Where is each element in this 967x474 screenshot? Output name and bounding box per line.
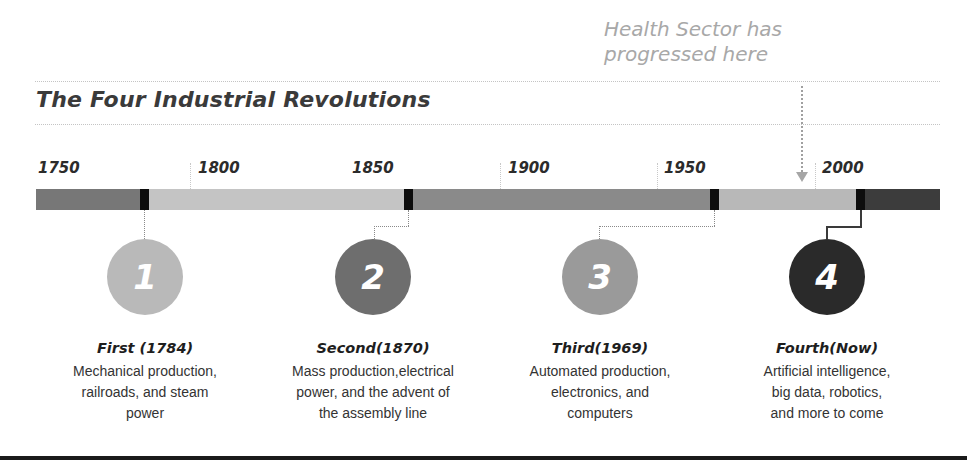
timeline-marker-third [710, 189, 719, 210]
stage-2-desc-line: Mass production,electrical [268, 361, 478, 382]
stage-1-number-badge: 1 [107, 239, 183, 315]
stage-3-info: Third(1969) Automated production, electr… [495, 338, 705, 424]
top-dotted-rule [35, 81, 940, 82]
timeline-segment-third [719, 189, 856, 210]
year-tick-1950 [657, 163, 658, 189]
bottom-divider [0, 456, 967, 460]
timeline-marker-first [140, 189, 149, 210]
stage-3-desc-line: electronics, and [495, 382, 705, 403]
year-tick-1800 [190, 163, 191, 189]
timeline-segment-fourth [865, 189, 940, 210]
timeline-segment-first [149, 189, 404, 210]
stage-4-number: 4 [815, 257, 839, 297]
timeline-segment-pre-first [36, 189, 140, 210]
stage-4-info: Fourth(Now) Artificial intelligence, big… [722, 338, 932, 424]
connector-fourth-a [860, 210, 862, 227]
callout-arrow-shaft [801, 86, 803, 176]
connector-fourth-c [826, 226, 828, 239]
stage-2-number-badge: 2 [335, 239, 411, 315]
diagram-title: The Four Industrial Revolutions [36, 87, 431, 112]
connector-second-b [374, 226, 409, 227]
timeline-segment-second [413, 189, 710, 210]
stage-2-number: 2 [361, 257, 385, 297]
health-sector-callout: Health Sector has progressed here [604, 17, 782, 67]
timeline-marker-fourth [856, 189, 865, 210]
title-dotted-rule [35, 124, 940, 125]
stage-4-heading: Fourth(Now) [722, 338, 932, 360]
stage-2-description: Mass production,electrical power, and th… [268, 361, 478, 424]
stage-3-desc-line: computers [495, 403, 705, 424]
year-label-2000: 2000 [822, 159, 864, 177]
stage-2-desc-line: the assembly line [268, 403, 478, 424]
year-tick-2000 [815, 163, 816, 189]
connector-fourth-b [826, 226, 862, 228]
year-label-1800: 1800 [198, 159, 240, 177]
connector-second-c [374, 226, 375, 239]
callout-line-1: Health Sector has [604, 17, 782, 42]
year-tick-1900 [500, 163, 501, 189]
stage-2-info: Second(1870) Mass production,electrical … [268, 338, 478, 424]
stage-1-info: First (1784) Mechanical production, rail… [40, 338, 250, 424]
stage-4-description: Artificial intelligence, big data, robot… [722, 361, 932, 424]
timeline-marker-second [404, 189, 413, 210]
stage-2-desc-line: power, and the advent of [268, 382, 478, 403]
arrow-down-icon [796, 172, 808, 182]
stage-4-desc-line: big data, robotics, [722, 382, 932, 403]
stage-4-desc-line: Artificial intelligence, [722, 361, 932, 382]
connector-first [144, 210, 145, 239]
stage-3-desc-line: Automated production, [495, 361, 705, 382]
stage-3-number-badge: 3 [562, 239, 638, 315]
stage-3-number: 3 [588, 257, 612, 297]
stage-4-number-badge: 4 [789, 239, 865, 315]
year-label-1950: 1950 [664, 159, 706, 177]
stage-1-number: 1 [133, 257, 157, 297]
stage-3-heading: Third(1969) [495, 338, 705, 360]
year-label-1850: 1850 [352, 159, 394, 177]
callout-line-2: progressed here [604, 42, 782, 67]
stage-1-desc-line: power [40, 403, 250, 424]
stage-3-description: Automated production, electronics, and c… [495, 361, 705, 424]
stage-4-desc-line: and more to come [722, 403, 932, 424]
stage-1-desc-line: railroads, and steam [40, 382, 250, 403]
connector-third-a [714, 210, 715, 226]
stage-1-desc-line: Mechanical production, [40, 361, 250, 382]
connector-third-c [599, 226, 600, 239]
year-label-1900: 1900 [508, 159, 550, 177]
stage-1-description: Mechanical production, railroads, and st… [40, 361, 250, 424]
connector-third-b [599, 226, 715, 227]
stage-1-heading: First (1784) [40, 338, 250, 360]
connector-second-a [408, 210, 409, 226]
year-label-1750: 1750 [38, 159, 80, 177]
stage-2-heading: Second(1870) [268, 338, 478, 360]
